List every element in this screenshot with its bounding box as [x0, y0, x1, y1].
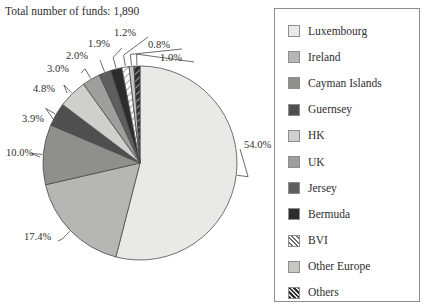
legend-item-label: HK — [308, 129, 325, 142]
legend-item[interactable]: BVI — [288, 228, 415, 254]
legend-item[interactable]: Others — [288, 280, 415, 306]
legend-swatch-icon — [288, 130, 300, 142]
pie-svg — [0, 18, 268, 308]
legend-swatch-icon — [288, 208, 300, 220]
pie-chart-plot-area: 54.0%17.4%10.0%3.9%4.8%3.0%2.0%1.9%1.2%0… — [0, 18, 268, 308]
legend-item[interactable]: Other Europe — [288, 254, 415, 280]
leader-line — [58, 231, 70, 241]
leader-line — [124, 37, 148, 66]
pie-percentage-label: 1.0% — [160, 52, 182, 64]
legend-swatch-icon — [288, 77, 300, 89]
legend-swatch-icon — [288, 156, 300, 168]
legend-item-label: Cayman Islands — [308, 77, 382, 90]
legend-items: LuxembourgIrelandCayman IslandsGuernseyH… — [288, 18, 415, 306]
legend-swatch-icon — [288, 51, 300, 63]
legend-item[interactable]: Ireland — [288, 44, 415, 70]
pie-percentage-label: 10.0% — [6, 147, 33, 159]
legend-item-label: Ireland — [308, 51, 341, 64]
legend-item-label: Luxembourg — [308, 25, 367, 38]
legend-swatch-icon — [288, 104, 300, 116]
pie-percentage-label: 2.0% — [66, 50, 88, 62]
pie-percentage-label: 3.9% — [22, 113, 44, 125]
pie-percentage-label: 17.4% — [24, 231, 51, 243]
legend-item[interactable]: HK — [288, 123, 415, 149]
pie-percentage-label: 1.2% — [114, 27, 136, 39]
legend-item-label: Jersey — [308, 182, 337, 195]
legend-swatch-icon — [288, 235, 300, 247]
legend-item-label: UK — [308, 156, 325, 169]
pie-slice-group — [43, 66, 237, 260]
legend-swatch-icon — [288, 261, 300, 273]
legend-item[interactable]: Luxembourg — [288, 18, 415, 44]
legend-item[interactable]: Guernsey — [288, 97, 415, 123]
legend-swatch-icon — [288, 287, 300, 299]
legend-item[interactable]: Bermuda — [288, 201, 415, 227]
pie-percentage-label: 4.8% — [33, 83, 55, 95]
pie-percentage-label: 1.9% — [88, 38, 110, 50]
legend-item[interactable]: Jersey — [288, 175, 415, 201]
legend-swatch-icon — [288, 182, 300, 194]
legend-item[interactable]: UK — [288, 149, 415, 175]
leader-line — [46, 108, 56, 123]
pie-chart-figure: Total number of funds: 1,890 54.0%17.4%1… — [0, 0, 428, 308]
page-title: Total number of funds: 1,890 — [5, 4, 139, 18]
leader-line — [237, 149, 248, 177]
legend-item-label: Other Europe — [308, 260, 370, 273]
leader-line — [81, 69, 91, 79]
pie-percentage-label: 54.0% — [244, 139, 271, 151]
legend-swatch-icon — [288, 25, 300, 37]
pie-percentage-label: 0.8% — [148, 39, 170, 51]
leader-line — [64, 85, 72, 93]
legend-item[interactable]: Cayman Islands — [288, 70, 415, 96]
leader-line — [113, 48, 122, 68]
legend-item-label: Others — [308, 286, 339, 299]
legend-item-label: Bermuda — [308, 208, 350, 221]
legend-item-label: Guernsey — [308, 103, 352, 116]
leader-line — [100, 60, 105, 72]
pie-percentage-label: 3.0% — [47, 63, 69, 75]
legend-item-label: BVI — [308, 234, 328, 247]
legend: LuxembourgIrelandCayman IslandsGuernseyH… — [274, 8, 420, 302]
